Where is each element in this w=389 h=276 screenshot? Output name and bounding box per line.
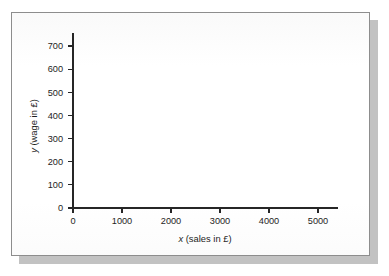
x-tick-label: 0 [70,216,75,226]
chart-plot-svg: 0 100 200 300 400 500 600 700 0 1000 200… [12,13,371,257]
figure-frame: 0 100 200 300 400 500 600 700 0 1000 200… [11,12,370,256]
x-axis-title-units: (sales in £) [183,233,231,244]
chart-canvas: 0 100 200 300 400 500 600 700 0 1000 200… [12,13,371,257]
y-axis-title: y (wage in £) [28,99,39,154]
y-tick-label: 700 [48,41,63,51]
y-tick-label: 100 [48,180,63,190]
y-tick-label: 0 [58,203,63,213]
y-tick-label: 600 [48,64,63,74]
y-tick-label: 500 [48,88,63,98]
y-tick-label: 300 [48,134,63,144]
x-tick-label: 4000 [259,216,279,226]
y-tick-label: 200 [48,157,63,167]
x-tick-label: 5000 [308,216,328,226]
x-tick-label: 2000 [161,216,181,226]
y-axis-tick-labels: 0 100 200 300 400 500 600 700 [48,41,63,213]
y-axis-ticks [68,46,73,208]
x-axis-ticks [73,208,318,213]
x-tick-label: 1000 [112,216,132,226]
y-axis-title-units: (wage in £) [28,99,39,148]
x-axis-tick-labels: 0 1000 2000 3000 4000 5000 [70,216,328,226]
y-tick-label: 400 [48,111,63,121]
x-axis-title: x (sales in £) [177,233,231,244]
x-tick-label: 3000 [210,216,230,226]
